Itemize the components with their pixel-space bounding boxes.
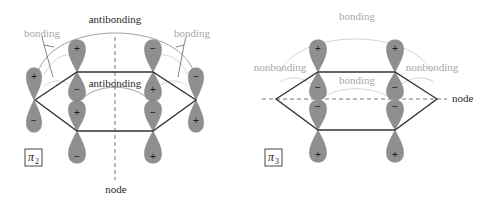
pi-symbol: π <box>28 150 35 164</box>
right-bonding-arc <box>156 55 188 75</box>
pi3-diagram: + − − + + − − + bonding bonding nonbondi… <box>254 10 474 166</box>
sign: − <box>193 71 199 82</box>
orbital-top-right: + − <box>386 40 403 100</box>
sign: + <box>74 43 80 54</box>
sign-plus: + <box>31 71 37 82</box>
sign: + <box>392 43 398 54</box>
sign: − <box>315 82 321 93</box>
right-bonding-pointer-2 <box>178 45 184 77</box>
right-bonding-label: bonding <box>174 27 211 39</box>
pi2-label-box: π 2 <box>25 149 42 166</box>
inner-bonding-label: bonding <box>339 74 376 86</box>
left-nonbonding-label: nonbonding <box>254 61 307 73</box>
top-antibonding-label: antibonding <box>89 13 142 25</box>
sign: + <box>150 84 156 95</box>
pi2-diagram: + − + − + − − + − + <box>24 13 211 195</box>
sign: − <box>74 151 80 162</box>
orbital-bottom-left: + − <box>68 100 85 163</box>
left-bonding-arc <box>44 55 74 75</box>
sign: + <box>74 107 80 118</box>
sign: + <box>193 115 199 126</box>
sign: − <box>392 101 398 112</box>
sign: + <box>392 149 398 160</box>
inner-bonding-arc <box>324 89 389 97</box>
node-label: node <box>105 183 127 195</box>
orbital-bottom-right: − + <box>386 100 403 162</box>
sign: − <box>150 107 156 118</box>
sign: − <box>150 43 156 54</box>
right-nonbonding-arc <box>402 78 434 84</box>
top-antibonding-arc <box>38 33 194 72</box>
sign: + <box>315 149 321 160</box>
sign: − <box>315 101 321 112</box>
pi-subscript: 3 <box>275 157 279 166</box>
left-bonding-label: bonding <box>24 27 61 39</box>
pi-subscript: 2 <box>35 157 39 166</box>
sign: − <box>392 82 398 93</box>
orbital-bottom-right: − + <box>144 100 161 163</box>
orbital-bottom-left: − + <box>309 100 326 162</box>
right-nonbonding-label: nonbonding <box>406 61 459 73</box>
inner-antibonding-label: antibonding <box>89 77 142 89</box>
pi-molecular-orbital-figure: + − + − + − − + − + <box>0 0 491 201</box>
sign: + <box>315 43 321 54</box>
pi3-label-box: π 3 <box>265 149 282 166</box>
pi-symbol: π <box>268 150 275 164</box>
orbital-top-left: + − <box>309 40 326 100</box>
orbital-top-left: + − <box>68 40 85 101</box>
top-bonding-label: bonding <box>339 10 376 22</box>
node-label: node <box>452 92 474 104</box>
left-nonbonding-arc <box>280 78 311 84</box>
sign: − <box>74 84 80 95</box>
sign-minus: − <box>31 115 37 126</box>
sign: + <box>150 151 156 162</box>
orbital-top-right: − + <box>144 40 161 101</box>
